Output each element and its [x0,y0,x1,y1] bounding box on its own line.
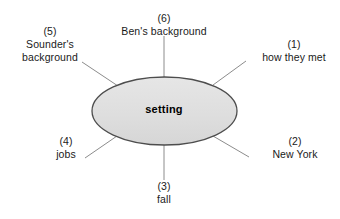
node-text-5-line2: background [2,51,98,64]
node-text-6: Ben's background [100,25,228,38]
node-label-3: (3) fall [134,180,194,206]
node-label-5: (5) Sounder's background [2,25,98,64]
node-label-6: (6) Ben's background [100,12,228,38]
node-label-1: (1) how they met [250,38,338,64]
node-label-2: (2) New York [252,135,338,161]
node-number-6: (6) [100,12,228,25]
connector-line-5 [82,62,118,86]
node-number-4: (4) [36,135,96,148]
node-text-5-line1: Sounder's [2,38,98,51]
diagram-canvas: setting (1) how they met (2) New York (3… [0,0,340,219]
node-number-1: (1) [250,38,338,51]
node-text-2: New York [252,148,338,161]
center-node-label: setting [124,103,204,115]
node-number-5: (5) [2,25,98,38]
node-text-3: fall [134,193,194,206]
node-number-2: (2) [252,135,338,148]
connector-line-2 [213,136,249,157]
node-text-1: how they met [250,51,338,64]
connector-line-1 [213,61,246,85]
node-number-3: (3) [134,180,194,193]
node-label-4: (4) jobs [36,135,96,161]
node-text-4: jobs [36,148,96,161]
